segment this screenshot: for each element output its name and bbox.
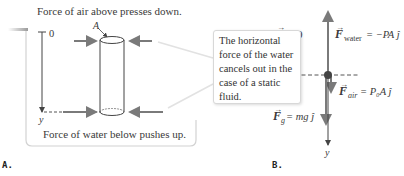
f-air-label: → F air = P₀A ĵ	[338, 80, 393, 100]
svg-text:F: F	[272, 109, 281, 123]
depth-axis	[38, 32, 100, 112]
svg-text:water: water	[344, 34, 362, 43]
fluid-cylinder	[98, 28, 124, 116]
axis-zero-label: 0	[49, 28, 54, 39]
free-body-diagram	[295, 12, 360, 145]
area-label: A	[92, 20, 100, 31]
svg-text:air: air	[348, 91, 358, 100]
callout-pointers	[158, 42, 213, 108]
f-gravity-label: → F g = mg ĵ	[272, 105, 315, 125]
bottom-caption: Force of water below pushes up.	[43, 128, 186, 140]
svg-text:F: F	[334, 27, 343, 41]
panel-b-label: B.	[272, 160, 283, 170]
callout-box: The horizontal force of the water cancel…	[213, 30, 301, 104]
panel-a-label: A.	[2, 160, 13, 170]
svg-text:g: g	[281, 116, 285, 125]
horizontal-force-arrows	[63, 41, 163, 112]
svg-text:= mg ĵ: = mg ĵ	[286, 111, 315, 122]
callout-text: The horizontal force of the water cancel…	[219, 35, 293, 102]
svg-text:= P₀A ĵ: = P₀A ĵ	[360, 86, 393, 97]
svg-text:= −PA ĵ: = −PA ĵ	[366, 29, 401, 40]
diagram-canvas: Force of air above presses down. 0 A y F…	[0, 0, 404, 176]
axis-y-label-a: y	[38, 114, 44, 125]
top-caption: Force of air above presses down.	[37, 5, 182, 17]
f-water-label: → F water = −PA ĵ	[334, 23, 401, 43]
svg-text:F: F	[338, 84, 347, 98]
axis-y-label-b: y	[324, 147, 330, 158]
